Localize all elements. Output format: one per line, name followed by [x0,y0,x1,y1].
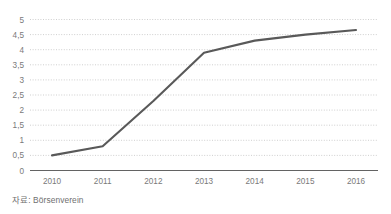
x-tick-label: 2011 [94,177,112,186]
y-axis-tick-labels: 00,511,522,533,544,55 [13,16,25,176]
y-tick-label: 2,5 [13,91,25,100]
y-tick-label: 2 [19,106,24,115]
x-tick-label: 2015 [296,177,315,186]
x-tick-label: 2012 [144,177,163,186]
y-tick-label: 3,5 [13,61,25,70]
gridlines [30,20,378,156]
x-axis-tick-labels: 2010201120122013201420152016 [43,177,366,186]
x-tick-label: 2010 [43,177,62,186]
y-tick-label: 3 [19,76,24,85]
y-tick-label: 1,5 [13,121,25,130]
data-series-line [52,30,356,155]
x-tick-label: 2016 [347,177,366,186]
y-tick-label: 0 [19,167,24,176]
x-tick-label: 2013 [195,177,214,186]
y-tick-label: 0,5 [13,151,25,160]
line-chart: 00,511,522,533,544,55 201020112012201320… [0,0,391,214]
y-tick-label: 1 [19,136,24,145]
x-tick-label: 2014 [246,177,265,186]
chart-container: 00,511,522,533,544,55 201020112012201320… [0,0,391,214]
source-note: 자료: Börsenverein [12,193,84,205]
y-tick-label: 4 [19,46,24,55]
y-tick-label: 5 [19,16,24,25]
y-tick-label: 4,5 [13,31,25,40]
